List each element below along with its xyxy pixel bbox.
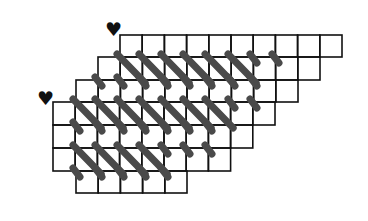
- grid-cell: [298, 57, 320, 80]
- grid-cell: [276, 80, 298, 102]
- grid-cell: [320, 35, 342, 57]
- stub-stitch: [250, 54, 257, 63]
- grid-cell: [275, 35, 297, 57]
- stub-stitch: [250, 99, 257, 108]
- stub-stitch: [161, 145, 168, 154]
- stub-stitch: [228, 99, 235, 108]
- stub-stitch: [117, 77, 124, 86]
- stub-stitch: [95, 77, 102, 86]
- stub-stitch: [73, 122, 80, 131]
- heart-icon: ♥: [105, 20, 122, 39]
- stub-stitch: [228, 77, 235, 86]
- stub-stitch: [73, 168, 80, 177]
- stub-stitch: [272, 54, 279, 63]
- stitch-chart: [0, 0, 368, 221]
- stub-stitch: [183, 145, 190, 154]
- stitches: [73, 54, 279, 177]
- heart-icon: ♥: [37, 89, 54, 108]
- stub-stitch: [205, 145, 212, 154]
- grid-cell: [298, 35, 320, 57]
